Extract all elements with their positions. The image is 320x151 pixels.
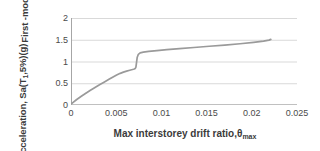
plot-svg [71, 18, 297, 105]
y-axis-title: First -mode spectral acceleration, Sa(T1… [7, 0, 41, 116]
y-tick-label: 2 [46, 13, 68, 23]
x-tick-label: 0.005 [105, 108, 128, 118]
y-axis-title-line2-pre: acceleration, Sa(T [17, 79, 28, 151]
x-axis-tick-labels: 00.0050.010.0150.020.025 [71, 108, 297, 122]
x-tick-label: 0.025 [286, 108, 309, 118]
y-axis-title-line1: First -mode spectral [19, 0, 30, 43]
x-axis-title-subscript: max [242, 133, 256, 140]
y-axis-title-line2-subscript: 1 [22, 75, 29, 79]
x-tick-label: 0.02 [243, 108, 261, 118]
x-axis-title-text: Max interstorey drift ratio,θ [114, 128, 243, 139]
x-tick-label: 0 [68, 108, 73, 118]
x-tick-label: 0.01 [153, 108, 171, 118]
chart-figure: First -mode spectral acceleration, Sa(T1… [0, 0, 320, 151]
x-tick-label: 0.015 [195, 108, 218, 118]
y-tick-label: 1.5 [46, 35, 68, 45]
plot-area [71, 18, 297, 105]
y-tick-label: 0.5 [46, 78, 68, 88]
y-axis-title-line2-post: ,5%)(g) [17, 44, 28, 75]
gridlines [71, 19, 297, 106]
y-axis-title-line2: acceleration, Sa(T1,5%)(g) [17, 44, 31, 151]
y-tick-label: 1 [46, 57, 68, 67]
data-series-line [71, 39, 271, 104]
x-axis-title: Max interstorey drift ratio,θmax [60, 128, 310, 140]
y-tick-label: 0 [46, 100, 68, 110]
